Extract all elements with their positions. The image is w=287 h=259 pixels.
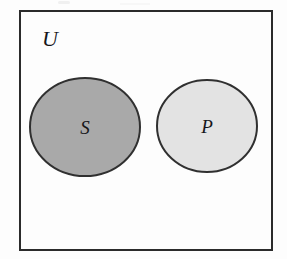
venn-diagram-canvas: U S P	[0, 0, 287, 259]
euler-diagram-figure: U S P	[0, 0, 287, 259]
set-s-label: S	[80, 117, 90, 138]
universal-set-label: U	[42, 26, 60, 51]
set-p-label: P	[200, 116, 213, 137]
